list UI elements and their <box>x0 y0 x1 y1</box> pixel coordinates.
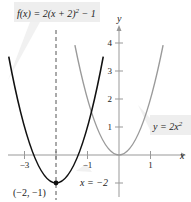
y-tick-label: 4 <box>108 38 113 48</box>
x-axis-label: x <box>179 150 185 161</box>
vertex-point <box>54 181 59 186</box>
x-tick-label: 1 <box>148 160 153 170</box>
f-function-label: f(x) = 2(x + 2)2 − 1 <box>17 7 96 20</box>
f-label-pointer <box>8 22 40 80</box>
x-tick-label: −3 <box>20 160 30 170</box>
chart-canvas: −3 −1 1 4 3 2 1 x y f(x) = 2(x + 2)2 − 1… <box>0 0 191 202</box>
axis-of-symmetry-label: x = −2 <box>79 177 108 188</box>
x-tick-label: −1 <box>83 160 93 170</box>
y-tick-label: 1 <box>108 122 113 132</box>
parabola-chart: −3 −1 1 4 3 2 1 x y f(x) = 2(x + 2)2 − 1… <box>0 0 191 202</box>
y-tick-label: 3 <box>108 66 113 76</box>
g-function-label: y = 2x2 <box>152 120 183 132</box>
y-tick-label: 2 <box>108 94 113 104</box>
y-axis-label: y <box>116 13 122 24</box>
vertex-label: (−2, −1) <box>13 187 46 199</box>
y-axis-arrow-icon <box>117 25 122 31</box>
